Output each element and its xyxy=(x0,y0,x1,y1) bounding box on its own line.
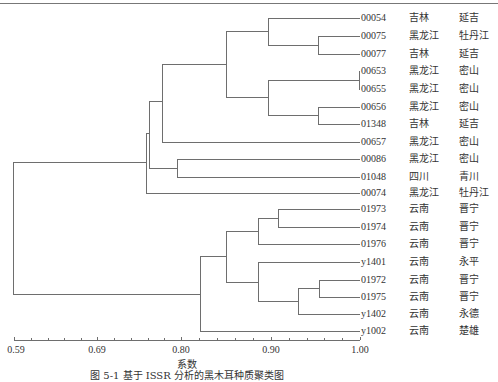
x-tick-label: 0.69 xyxy=(88,344,106,355)
dendrogram-branches xyxy=(13,18,360,340)
x-tick-label: 0.80 xyxy=(172,344,190,355)
x-tick-label: 1.00 xyxy=(351,344,369,355)
figure-caption: 图 5-1 基于 ISSR 分析的黑木耳种质聚类图 xyxy=(90,367,284,382)
x-tick-label: 0.59 xyxy=(7,344,25,355)
x-tick-label: 0.90 xyxy=(262,344,280,355)
